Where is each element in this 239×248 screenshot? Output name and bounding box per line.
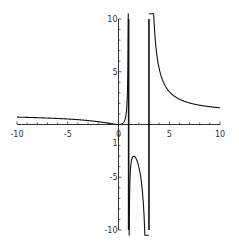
y-tick-label: 5 xyxy=(112,68,117,77)
curve-branch-middle xyxy=(129,156,149,235)
y-tick-label: -10 xyxy=(104,226,117,235)
y-small-label: 1 xyxy=(112,139,117,148)
x-tick-label: -5 xyxy=(64,130,72,139)
curve-branch-right xyxy=(149,14,220,108)
y-tick-label: -5 xyxy=(110,173,118,182)
x-tick-label: 0 xyxy=(116,130,121,139)
function-plot: -10-50510105-5-101 xyxy=(0,0,239,248)
x-tick-label: 10 xyxy=(215,130,225,139)
x-tick-label: 5 xyxy=(167,130,172,139)
x-tick-label: -10 xyxy=(10,130,23,139)
y-tick-label: 10 xyxy=(107,15,117,24)
